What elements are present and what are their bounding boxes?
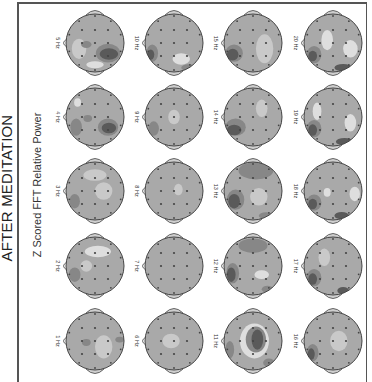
electrode-dot — [157, 94, 159, 96]
topo-map: 12 Hz — [213, 234, 282, 299]
topo-map: 1 Hz — [55, 309, 124, 374]
topo-map: 11 Hz — [213, 309, 282, 374]
topo-map: 8 Hz — [134, 159, 203, 224]
electrode-dot — [199, 108, 201, 110]
frequency-label: 16 Hz — [293, 334, 299, 349]
electrode-dot — [81, 203, 83, 205]
electrode-dot — [348, 212, 350, 214]
electrode-dot — [265, 55, 267, 57]
electrode-dot — [226, 273, 228, 275]
electrode-dot — [160, 116, 162, 118]
electrode-dot — [189, 64, 191, 66]
electrode-dot — [332, 217, 334, 219]
electrode-dot — [306, 257, 308, 259]
electrode-dot — [306, 348, 308, 350]
electrode-dot — [332, 238, 334, 240]
electrode-dot — [239, 116, 241, 118]
electrode-dot — [252, 89, 254, 91]
electrode-dot — [345, 203, 347, 205]
electrode-dot — [189, 168, 191, 170]
electrode-dot — [319, 129, 321, 131]
electrode-dot — [316, 138, 318, 140]
electrode-dot — [239, 265, 241, 267]
frequency-label: 15 Hz — [213, 36, 219, 51]
electrode-dot — [226, 182, 228, 184]
electrode-dot — [186, 340, 188, 342]
electrode-dot — [252, 292, 254, 294]
electrode-dot — [332, 129, 334, 131]
electrode-dot — [160, 265, 162, 267]
electrode-dot — [239, 190, 241, 192]
electrode-dot — [78, 138, 80, 140]
electrode-dot — [319, 353, 321, 355]
electrode-dot — [147, 108, 149, 110]
electrode-dot — [239, 353, 241, 355]
electrode-dot — [110, 138, 112, 140]
electrode-dot — [186, 129, 188, 131]
electrode-dot — [173, 143, 175, 145]
electrode-dot — [348, 243, 350, 245]
electrode-dot — [345, 103, 347, 105]
topo-map: 7 Hz — [134, 234, 203, 299]
electrode-dot — [186, 203, 188, 205]
electrode-dot — [252, 103, 254, 105]
electrode-dot — [157, 287, 159, 289]
electrode-dot — [332, 69, 334, 71]
frequency-label: 8 Hz — [134, 185, 140, 197]
electrode-dot — [319, 203, 321, 205]
electrode-dot — [239, 42, 241, 44]
electrode-dot — [345, 353, 347, 355]
electrode-dot — [199, 124, 201, 126]
electrode-dot — [189, 94, 191, 96]
electrode-dot — [107, 265, 109, 267]
electrode-dot — [68, 34, 70, 36]
electrode-dot — [236, 318, 238, 320]
electrode-dot — [252, 265, 254, 267]
electrode-dot — [252, 116, 254, 118]
power-region — [227, 267, 236, 282]
electrode-dot — [81, 116, 83, 118]
topo-map: 18 Hz — [293, 159, 362, 224]
electrode-dot — [186, 265, 188, 267]
electrode-dot — [94, 163, 96, 165]
topo-map: 5 Hz — [55, 11, 124, 76]
electrode-dot — [236, 94, 238, 96]
electrode-dot — [278, 198, 280, 200]
electrode-dot — [306, 198, 308, 200]
electrode-dot — [332, 292, 334, 294]
electrode-dot — [268, 64, 270, 66]
frequency-label: 2 Hz — [55, 260, 61, 272]
electrode-dot — [348, 318, 350, 320]
electrode-dot — [268, 94, 270, 96]
electrode-dot — [332, 190, 334, 192]
electrode-dot — [265, 340, 267, 342]
electrode-dot — [316, 212, 318, 214]
electrode-dot — [94, 15, 96, 17]
electrode-dot — [147, 332, 149, 334]
electrode-dot — [120, 182, 122, 184]
power-region — [102, 123, 117, 133]
electrode-dot — [236, 64, 238, 66]
electrode-dot — [173, 278, 175, 280]
electrode-dot — [68, 50, 70, 52]
electrode-dot — [173, 217, 175, 219]
electrode-dot — [319, 29, 321, 31]
electrode-dot — [306, 50, 308, 52]
topo-map: 17 Hz — [293, 234, 362, 299]
electrode-dot — [173, 116, 175, 118]
frequency-label: 4 Hz — [55, 111, 61, 123]
electrode-dot — [94, 353, 96, 355]
electrode-dot — [226, 257, 228, 259]
power-region — [69, 194, 79, 209]
electrode-dot — [186, 103, 188, 105]
frequency-label: 20 Hz — [293, 36, 299, 51]
electrode-dot — [226, 348, 228, 350]
electrode-dot — [173, 89, 175, 91]
electrode-dot — [157, 212, 159, 214]
power-region — [83, 169, 106, 181]
power-region — [173, 53, 190, 65]
electrode-dot — [173, 238, 175, 240]
electrode-dot — [120, 348, 122, 350]
electrode-dot — [186, 29, 188, 31]
electrode-dot — [94, 327, 96, 329]
